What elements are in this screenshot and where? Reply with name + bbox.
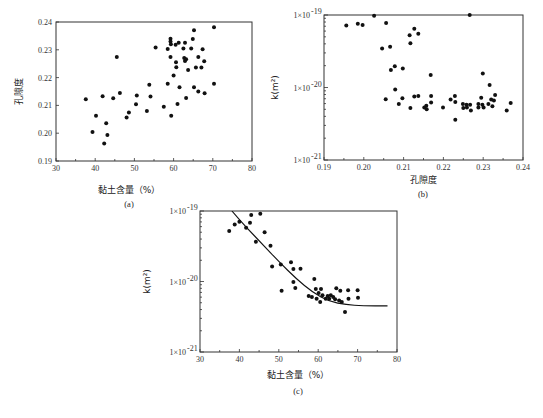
data-point [212,25,216,29]
data-point [147,83,151,87]
data-point [178,85,182,89]
data-point [393,64,397,68]
data-point [389,68,393,72]
data-point [468,103,472,107]
data-point [135,93,139,97]
data-point [312,277,316,281]
x-tick-label: 30 [196,355,204,364]
data-point [258,212,262,216]
data-point [505,109,509,113]
data-point [361,23,365,27]
panel-label: (c) [293,386,303,396]
chart-b: 0.190.200.210.220.230.241×10-211×10-201×… [270,7,530,199]
data-point [481,72,485,76]
data-point [380,47,384,51]
data-point [299,267,303,271]
x-tick-label: 60 [314,355,322,364]
data-point [425,107,429,111]
x-tick-label: 0.23 [476,163,490,172]
data-point [199,66,203,70]
y-tick-label: 0.23 [38,46,52,55]
data-point [416,32,420,36]
data-point [476,106,480,110]
data-point [111,96,115,100]
data-point [393,87,397,91]
chart-a: 3040506070800.190.200.210.220.230.24黏土含量… [13,18,256,209]
data-point [453,118,457,122]
data-point [291,280,295,284]
data-point [270,264,274,268]
data-point [183,41,187,45]
data-point [388,45,392,49]
data-point [105,133,109,137]
data-point [488,83,492,87]
data-point [397,102,401,106]
data-point [202,59,206,63]
data-point [196,55,200,59]
data-point [347,297,351,301]
x-axis-title: 黏土含量（%） [267,369,330,380]
data-point [408,106,412,110]
data-point [346,288,350,292]
data-point [319,287,323,291]
data-point [154,46,158,50]
figure: 3040506070800.190.200.210.220.230.24黏土含量… [0,0,543,418]
x-axis-title: 孔隙度 [410,174,437,185]
x-tick-label: 0.19 [317,163,331,172]
data-point [176,102,180,106]
y-tick-label: 0.24 [38,18,52,27]
data-point [104,121,108,125]
data-point [356,288,360,292]
data-point [490,104,494,108]
data-point [449,98,453,102]
data-point [237,220,241,224]
fit-curve [232,211,388,306]
data-point [172,73,176,77]
data-point [465,106,469,110]
panel-label: (a) [124,199,134,209]
data-point [429,94,433,98]
data-point [327,297,331,301]
y-tick-exponent: -21 [311,152,322,161]
data-point [134,102,138,106]
data-point [115,55,119,59]
data-point [189,46,193,50]
panel-label: (b) [418,189,428,199]
data-point [469,109,473,113]
plot-frame [324,15,523,160]
y-axis-title: 孔隙度 [13,78,24,105]
y-tick-label: 1×10 [293,156,310,165]
data-point [333,297,337,301]
data-point [412,95,416,99]
y-tick-exponent: -20 [187,274,198,283]
data-point [166,47,170,51]
data-point [453,94,457,98]
chart-c: 3040506070801×10-211×10-201×10-19黏土含量（%）… [142,203,401,396]
data-point [102,142,106,146]
data-point [149,95,153,99]
data-point [201,47,205,51]
data-point [91,130,95,134]
data-point [317,291,321,295]
x-tick-label: 80 [248,164,256,173]
y-tick-exponent: -21 [187,344,198,353]
x-tick-label: 50 [275,355,283,364]
data-point [291,267,295,271]
data-point [263,230,267,234]
data-point [118,91,122,95]
data-point [174,65,178,69]
y-tick-label: 0.19 [38,157,52,166]
data-point [196,90,200,94]
data-point [127,110,131,114]
y-tick-label: 1×10 [293,11,310,20]
data-point [84,97,88,101]
data-point [169,114,173,118]
data-point [314,287,318,291]
data-point [249,213,253,217]
data-point [181,46,185,50]
data-point [192,28,196,32]
y-tick-label: 0.21 [38,101,52,110]
x-tick-label: 0.21 [397,163,411,172]
data-point [461,106,465,110]
data-point [441,106,445,110]
